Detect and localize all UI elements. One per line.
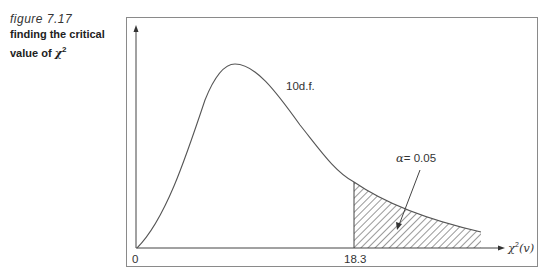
- alpha-annotation: α= 0.05: [396, 151, 436, 165]
- x-axis-label: χ2(v): [507, 241, 534, 255]
- curve-label: 10d.f.: [286, 80, 315, 92]
- x-tick-critical: 18.3: [344, 253, 366, 265]
- x-axis-arrow-icon: [498, 246, 505, 251]
- alpha-value: = 0.05: [404, 152, 436, 164]
- x-tick-origin: 0: [132, 253, 138, 265]
- chi-square-chart: 10d.f. α= 0.05 0 18.3 χ2(v): [0, 0, 555, 275]
- y-axis-arrow-icon: [134, 25, 139, 32]
- x-axis-arg: (v): [519, 241, 534, 255]
- rejection-region: [354, 182, 481, 248]
